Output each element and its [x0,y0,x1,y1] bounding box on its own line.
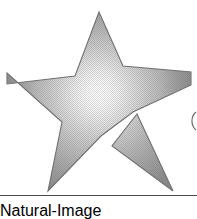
star-image-canvas [0,0,197,202]
star-body-group [7,12,191,191]
star-arm-shading [7,12,191,191]
right-edge-arc-fragment-icon [192,112,196,130]
star-illustration [0,0,197,202]
